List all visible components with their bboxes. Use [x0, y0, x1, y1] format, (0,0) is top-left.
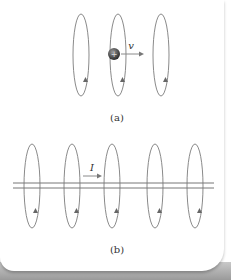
panel-b-label: (b): [110, 244, 124, 255]
field-loop: [104, 144, 120, 228]
current-label: I: [89, 162, 95, 173]
arrowhead-icon: [33, 208, 38, 213]
field-loop: [153, 14, 169, 96]
charge-sign: +: [111, 50, 118, 59]
field-loop: [187, 144, 203, 228]
velocity-label: v: [128, 40, 134, 51]
arrowhead-icon: [97, 174, 102, 179]
panel-b: I (b): [13, 144, 214, 255]
field-loop: [73, 14, 89, 96]
arrowhead-icon: [139, 52, 144, 57]
field-loop: [64, 144, 80, 228]
field-loop: [24, 144, 40, 228]
field-loop: [147, 144, 163, 228]
panel-a-label: (a): [110, 112, 124, 123]
panel-a: + v (a): [73, 14, 169, 123]
magnetic-field-diagram: + v (a) I (b): [0, 0, 231, 280]
